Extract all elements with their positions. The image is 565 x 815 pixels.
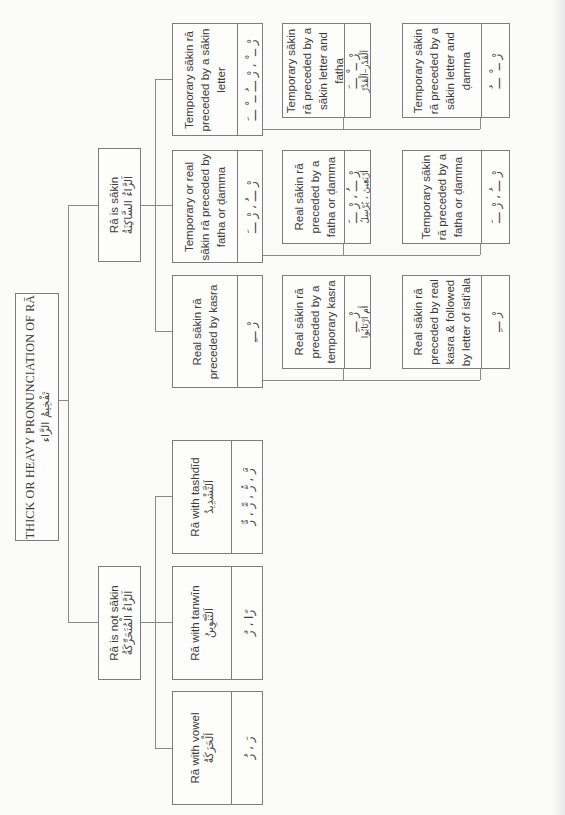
node-label: Real sākin rā preceded by a fatha or ḍam… bbox=[290, 151, 338, 243]
connector-to-sakin bbox=[68, 205, 99, 206]
connector-not-sakin-child2 bbox=[155, 622, 173, 623]
node-label: Temporary or real sākin rā preceded by f… bbox=[181, 151, 229, 262]
connector-level1-spine bbox=[68, 205, 69, 623]
connector-row3-level3-b bbox=[480, 368, 481, 380]
not-sakin-child-tanwin: Rā with tanwīn اَلتَّنْوِينُ رًا ، رٌ bbox=[172, 566, 263, 680]
connector-row1-level3-a bbox=[343, 117, 344, 129]
node-example: رْ ـــُ ، رْ ـــَ bbox=[346, 171, 360, 223]
connector-row3-level3-a bbox=[343, 368, 344, 380]
sakin-child-fatha-damma: Temporary or real sākin rā preceded by f… bbox=[172, 150, 263, 263]
connector-row1-level3 bbox=[262, 129, 480, 130]
node-example: رًا ، رٌ bbox=[241, 610, 255, 636]
not-sakin-child-vowel: Rā with vowel اَلْحَرَكَةُ رَ ، رُ bbox=[172, 691, 263, 805]
connector-row1-level3-b bbox=[480, 117, 481, 129]
node-word: أَرْبَعِينَ ، يُرْسِلُ bbox=[360, 170, 371, 224]
connector-sakin-child3 bbox=[155, 331, 173, 332]
node-arabic: اَلْحَرَكَةُ bbox=[203, 733, 217, 764]
connector-sakin-child1 bbox=[155, 79, 173, 80]
node-label: Rā with tashdīd bbox=[187, 457, 203, 536]
connector-not-sakin-out bbox=[140, 622, 155, 623]
connector-sakin-out bbox=[140, 205, 155, 206]
node-arabic: اَلتَّشْدِيدُ bbox=[203, 480, 217, 514]
node-example: رْ ــ ْ ـــُ bbox=[489, 53, 503, 88]
connector-row2-level3-a bbox=[343, 243, 344, 255]
not-sakin-box: Rā is not sākin اَلرَّاءُ الْمُتَحَرِّكَ… bbox=[98, 566, 141, 680]
node-example: رْ ـــِ bbox=[489, 312, 503, 332]
sakin-child-temporary-after-sakin: Temporary sākin rā preceded by a sākin l… bbox=[172, 23, 263, 136]
connector-root bbox=[58, 400, 68, 401]
node-example: رْ ــ ْ ـــَ bbox=[346, 53, 360, 88]
sakin-box: Rā is sākin اَلرَّاءُ السَّاكِنَةُ bbox=[98, 148, 141, 262]
connector-not-sakin-child1 bbox=[155, 496, 173, 497]
node-example: رَّ ، رُّ ، رًّ ، رٌّ bbox=[241, 468, 255, 526]
level3-temporary-fatha-damma: Temporary sākin rā preceded by a fatha o… bbox=[402, 150, 510, 244]
not-sakin-arabic: اَلرَّاءُ الْمُتَحَرِّكَةُ bbox=[121, 591, 135, 656]
connector-row3-level3 bbox=[262, 380, 480, 381]
sakin-arabic: اَلرَّاءُ السَّاكِنَةُ bbox=[121, 176, 135, 234]
level3-temporary-kasra: Real sākin rā preceded by a temporary ka… bbox=[282, 275, 371, 369]
node-example: رْ ـــِ bbox=[346, 312, 360, 332]
level3-real-fatha-damma: Real sākin rā preceded by a fatha or ḍam… bbox=[282, 150, 371, 244]
node-example: رْ ـــُ ، رْ ـــَ bbox=[244, 181, 258, 233]
node-label: Real sākin rā preceded by a temporary ka… bbox=[290, 276, 338, 368]
sakin-child-kasra: Real sākin rā preceded by kasra رْ ـــِ bbox=[172, 275, 263, 388]
connector-row2-level3 bbox=[262, 255, 480, 256]
node-label: Rā with tanwīn bbox=[187, 585, 203, 660]
not-sakin-child-tashdid: Rā with tashdīd اَلتَّشْدِيدُ رَّ ، رُّ … bbox=[172, 440, 263, 554]
node-label: Real sākin rā preceded by real kasra & f… bbox=[410, 276, 474, 368]
node-label: Temporary sākin rā preceded by a sākin l… bbox=[410, 24, 474, 117]
node-label: Real sākin rā preceded by kasra bbox=[189, 276, 221, 387]
node-example: رْ ـــُ ، رْ ـــَ bbox=[489, 171, 503, 223]
sakin-label: Rā is sākin bbox=[105, 177, 121, 233]
node-example: رَ ، رُ bbox=[241, 736, 255, 759]
root-title: THICK OR HEAVY PRONUNCIATION OF RĀ bbox=[22, 295, 39, 539]
node-label: Rā with vowel bbox=[187, 713, 203, 784]
connector-row2-level3-b bbox=[480, 243, 481, 255]
level3-real-kasra-istiala: Real sākin rā preceded by real kasra & f… bbox=[402, 275, 510, 369]
level3-sakin-letter-damma: Temporary sākin rā preceded by a sākin l… bbox=[402, 23, 510, 118]
node-label: Temporary sākin rā preceded by a sākin l… bbox=[282, 24, 346, 117]
connector-to-not-sakin bbox=[68, 622, 99, 623]
connector-not-sakin-child3 bbox=[155, 748, 173, 749]
not-sakin-label: Rā is not sākin bbox=[105, 585, 121, 660]
node-word: أَمِ ارْتَابُوا bbox=[360, 306, 371, 339]
page-edge-shadow bbox=[551, 0, 565, 815]
node-label: Temporary sākin rā preceded by a fatha o… bbox=[418, 151, 466, 243]
root-arabic: تَفْخِيمُ الرَّاء bbox=[39, 392, 53, 443]
root-box: THICK OR HEAVY PRONUNCIATION OF RĀ تَفْخ… bbox=[15, 293, 59, 541]
node-example: رْ ــ ْ ، رْ ـــُ ــ ْ ـــَ bbox=[244, 39, 258, 120]
node-example: رْ ـــِ bbox=[244, 321, 258, 341]
node-label: Temporary sākin rā preceded by a sākin l… bbox=[181, 24, 229, 135]
connector-sakin-child2 bbox=[155, 205, 173, 206]
level3-sakin-letter-fatha: Temporary sākin rā preceded by a sākin l… bbox=[282, 23, 371, 118]
node-word: اَلْقَدْرِ–اَلْقَدْرْ bbox=[360, 49, 371, 91]
node-arabic: اَلتَّنْوِينُ bbox=[203, 608, 217, 638]
